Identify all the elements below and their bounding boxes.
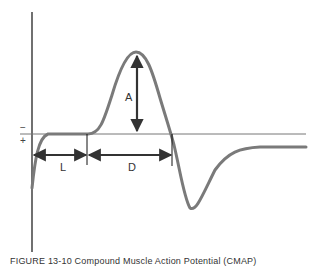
latency-label: L — [60, 161, 66, 173]
minus-sign: − — [20, 122, 26, 133]
figure-caption: FIGURE 13-10 Compound Muscle Action Pote… — [10, 256, 257, 266]
amplitude-label: A — [125, 91, 133, 103]
cmap-waveform — [32, 52, 306, 209]
plus-sign: + — [20, 135, 26, 146]
duration-label: D — [128, 161, 136, 173]
